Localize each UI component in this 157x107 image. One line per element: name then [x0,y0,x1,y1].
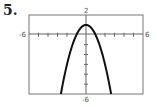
y-max-label: 2 [84,7,88,15]
x-max-label: 6 [145,31,150,39]
x-min-label: -6 [19,31,27,39]
y-min-label: -6 [82,96,90,104]
graph: -6 6 2 -6 [0,0,157,107]
